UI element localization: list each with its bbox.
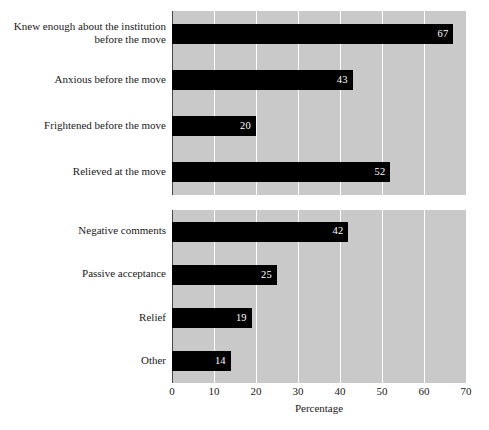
category-label: Knew enough about the institutionbefore … <box>0 20 166 46</box>
x-axis-tick-label: 50 <box>377 385 388 397</box>
category-label: Frightened before the move <box>0 119 166 132</box>
category-label: Passive acceptance <box>0 267 166 280</box>
bar-value-label: 67 <box>437 29 448 40</box>
category-label-line: Knew enough about the institution <box>0 20 166 33</box>
figure: 67432052 Knew enough about the instituti… <box>0 0 489 430</box>
category-label: Relieved at the move <box>0 165 166 178</box>
category-label: Anxious before the move <box>0 73 166 86</box>
bar: 20 <box>172 116 256 136</box>
category-label-line: Other <box>0 354 166 367</box>
x-axis-tick-label: 70 <box>461 385 472 397</box>
bar: 52 <box>172 162 390 182</box>
category-label: Negative comments <box>0 224 166 237</box>
bar-value-label: 19 <box>236 313 247 324</box>
bar-value-label: 43 <box>337 75 348 86</box>
category-label-line: Negative comments <box>0 224 166 237</box>
gridline <box>466 11 467 195</box>
category-label-line: before the move <box>0 33 166 46</box>
bar: 67 <box>172 24 453 44</box>
bar-value-label: 42 <box>332 226 343 237</box>
x-axis-tick-label: 60 <box>419 385 430 397</box>
x-axis-tick-label: 40 <box>335 385 346 397</box>
bar-value-label: 14 <box>215 356 226 367</box>
x-axis-title: Percentage <box>172 402 466 414</box>
x-axis-tick-label: 0 <box>169 385 175 397</box>
chart-panel-top: 67432052 <box>172 11 466 195</box>
x-axis-tick-label: 10 <box>209 385 220 397</box>
bar: 25 <box>172 265 277 285</box>
bar-value-label: 20 <box>240 121 251 132</box>
bar: 19 <box>172 308 252 328</box>
gridline <box>466 210 467 383</box>
bar-value-label: 25 <box>261 270 272 281</box>
category-label-line: Frightened before the move <box>0 119 166 132</box>
chart-panel-bottom: 42251914 <box>172 210 466 383</box>
category-label-line: Passive acceptance <box>0 267 166 280</box>
category-label-line: Relieved at the move <box>0 165 166 178</box>
x-axis-tick-label: 30 <box>293 385 304 397</box>
category-label-line: Relief <box>0 311 166 324</box>
bar-series-top: 67432052 <box>172 11 466 195</box>
x-axis-tick-label: 20 <box>251 385 262 397</box>
bar: 43 <box>172 70 353 90</box>
category-label-line: Anxious before the move <box>0 73 166 86</box>
bar: 42 <box>172 222 348 242</box>
bar-series-bottom: 42251914 <box>172 210 466 383</box>
bar: 14 <box>172 351 231 371</box>
category-label: Relief <box>0 311 166 324</box>
category-label: Other <box>0 354 166 367</box>
bar-value-label: 52 <box>374 167 385 178</box>
